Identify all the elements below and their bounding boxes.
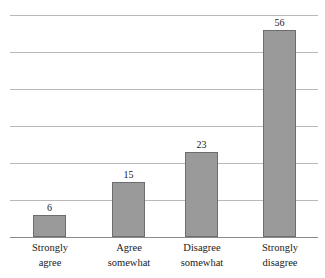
- category-label-line-1: Strongly: [7, 240, 93, 255]
- category-label-line-2: somewhat: [159, 255, 245, 270]
- bar-value-disagree-somewhat: 23: [197, 139, 207, 150]
- gridline-60: [10, 15, 318, 16]
- category-label-line-2: disagree: [237, 255, 323, 270]
- category-label-line-1: Strongly: [237, 240, 323, 255]
- bar-disagree-somewhat[interactable]: [185, 152, 218, 237]
- category-label-strongly-agree: Strongly agree: [7, 240, 93, 270]
- x-axis-labels: Strongly agree Agree somewhat Disagree s…: [10, 240, 318, 278]
- bar-value-agree-somewhat: 15: [124, 169, 134, 180]
- bar-chart: 6 15 23 56 Strongly agree Agree somewhat: [0, 0, 325, 278]
- category-label-disagree-somewhat: Disagree somewhat: [159, 240, 245, 270]
- bar-strongly-disagree[interactable]: [263, 30, 296, 237]
- category-label-strongly-disagree: Strongly disagree: [237, 240, 323, 270]
- plot-area: 6 15 23 56: [10, 15, 318, 237]
- bar-agree-somewhat[interactable]: [112, 182, 145, 237]
- category-label-line-2: agree: [7, 255, 93, 270]
- bar-strongly-agree[interactable]: [33, 215, 66, 237]
- x-axis-line: [10, 237, 318, 238]
- bar-value-strongly-disagree: 56: [275, 17, 285, 28]
- category-label-line-1: Disagree: [159, 240, 245, 255]
- bar-value-strongly-agree: 6: [47, 202, 52, 213]
